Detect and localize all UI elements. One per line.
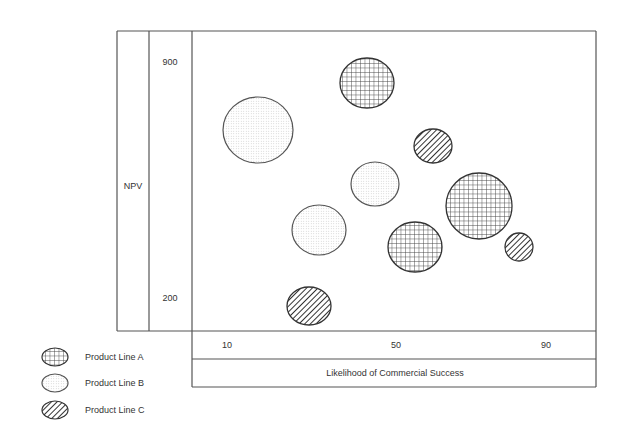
diagonal-swatch-icon	[42, 401, 68, 419]
bubble-a-1[interactable]	[340, 58, 394, 108]
bubble-c-2[interactable]	[505, 233, 533, 261]
legend-item-b[interactable]: Product Line B	[42, 374, 144, 392]
x-tick-10: 10	[222, 340, 232, 350]
y-tick-200: 200	[162, 293, 177, 303]
x-axis-label: Likelihood of Commercial Success	[326, 368, 464, 378]
legend-item-a[interactable]: Product Line A	[42, 348, 144, 366]
series-product-line-b	[223, 97, 399, 255]
x-tick-50: 50	[391, 340, 401, 350]
bubble-a-3[interactable]	[388, 222, 442, 272]
bubble-b-3[interactable]	[292, 205, 346, 255]
x-tick-90: 90	[541, 340, 551, 350]
legend-label-a: Product Line A	[85, 352, 144, 362]
legend-label-c: Product Line C	[85, 405, 145, 415]
y-axis-label: NPV	[124, 181, 143, 191]
legend: Product Line A Product Line B Product Li…	[42, 348, 145, 419]
legend-label-b: Product Line B	[85, 378, 144, 388]
bubble-chart: NPV 900 200 10 50 90 Likelihood of Comme…	[0, 0, 622, 441]
bubble-c-3[interactable]	[287, 287, 331, 325]
bubble-b-1[interactable]	[223, 97, 293, 163]
bubble-c-1[interactable]	[414, 129, 452, 163]
bubble-a-2[interactable]	[446, 173, 512, 239]
crosshatch-swatch-icon	[42, 348, 68, 366]
y-tick-900: 900	[162, 57, 177, 67]
legend-item-c[interactable]: Product Line C	[42, 401, 145, 419]
bubble-b-2[interactable]	[351, 162, 399, 206]
stipple-swatch-icon	[42, 374, 68, 392]
